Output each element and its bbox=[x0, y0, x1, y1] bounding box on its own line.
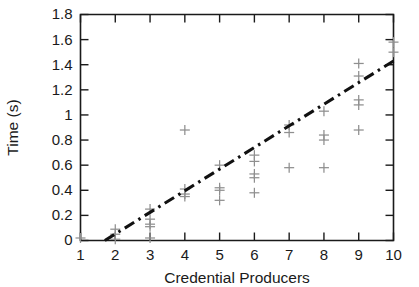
data-point bbox=[319, 135, 329, 145]
x-tick-label-1: 2 bbox=[111, 246, 119, 263]
data-point bbox=[354, 71, 364, 81]
y-tick-label-8: 1.6 bbox=[52, 31, 73, 48]
data-point bbox=[249, 188, 259, 198]
fit-line bbox=[105, 61, 394, 241]
y-tick-label-7: 1.4 bbox=[52, 56, 73, 73]
data-point bbox=[319, 163, 329, 173]
data-point bbox=[215, 195, 225, 205]
data-point bbox=[215, 185, 225, 195]
data-point bbox=[249, 156, 259, 166]
x-tick-label-8: 9 bbox=[355, 246, 363, 263]
y-tick-label-3: 0.6 bbox=[52, 156, 73, 173]
x-tick-label-5: 6 bbox=[250, 246, 258, 263]
plot-axes bbox=[81, 15, 394, 241]
y-axis-title: Time (s) bbox=[4, 99, 21, 155]
y-tick-label-5: 1 bbox=[64, 106, 72, 123]
x-tick-label-7: 8 bbox=[320, 246, 328, 263]
y-tick-label-4: 0.8 bbox=[52, 131, 73, 148]
x-tick-label-4: 5 bbox=[215, 246, 223, 263]
data-point bbox=[180, 192, 190, 202]
data-point bbox=[145, 222, 155, 232]
data-point bbox=[76, 233, 86, 243]
axis-labels: 00.20.40.60.811.21.41.61.812345678910Cre… bbox=[4, 5, 402, 286]
data-point bbox=[284, 163, 294, 173]
x-tick-label-2: 3 bbox=[146, 246, 154, 263]
y-tick-label-6: 1.2 bbox=[52, 81, 73, 98]
x-axis-title: Credential Producers bbox=[164, 269, 310, 286]
data-point bbox=[110, 224, 120, 234]
x-tick-label-9: 10 bbox=[385, 246, 402, 263]
regression-line bbox=[105, 61, 394, 241]
plot-frame bbox=[81, 15, 394, 241]
data-point bbox=[145, 233, 155, 243]
data-markers bbox=[76, 37, 399, 244]
data-point bbox=[180, 125, 190, 135]
data-point bbox=[389, 37, 399, 47]
y-tick-label-2: 0.4 bbox=[52, 181, 73, 198]
y-tick-label-1: 0.2 bbox=[52, 206, 73, 223]
data-point bbox=[354, 58, 364, 68]
x-tick-label-3: 4 bbox=[181, 246, 189, 263]
data-point bbox=[354, 100, 364, 110]
scatter-plot-svg: 00.20.40.60.811.21.41.61.812345678910Cre… bbox=[0, 0, 419, 287]
data-point bbox=[389, 47, 399, 57]
x-tick-label-6: 7 bbox=[285, 246, 293, 263]
y-tick-label-0: 0 bbox=[64, 231, 72, 248]
y-tick-label-9: 1.8 bbox=[52, 5, 73, 22]
x-tick-label-0: 1 bbox=[76, 246, 84, 263]
chart-figure: 00.20.40.60.811.21.41.61.812345678910Cre… bbox=[0, 0, 419, 287]
data-point bbox=[354, 125, 364, 135]
